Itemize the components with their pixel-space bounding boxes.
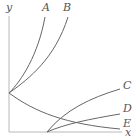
curve-d-label: D (123, 103, 132, 114)
curve-a (9, 17, 45, 93)
curve-b-label: B (63, 2, 71, 13)
x-axis-label: x (125, 127, 131, 138)
plot-area (0, 0, 135, 140)
curve-e (9, 93, 120, 129)
curve-b (9, 17, 68, 93)
curve-a-label: A (42, 2, 50, 13)
y-axis-label: y (6, 2, 12, 13)
curve-c (47, 89, 120, 132)
curve-d (47, 114, 120, 132)
curve-c-label: C (123, 80, 131, 91)
